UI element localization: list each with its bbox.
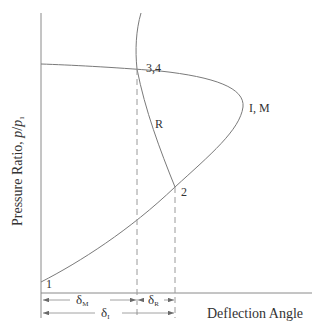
- label-point-3-4: 3,4: [146, 61, 161, 75]
- shock-polar-diagram: 1 3,4 I, M 2 R δM δR δI Deflection Angle…: [0, 0, 324, 332]
- label-point-1: 1: [46, 277, 52, 291]
- label-delta-I: δI: [101, 305, 110, 321]
- incident-shock-polar: [41, 64, 243, 282]
- x-axis-label: Deflection Angle: [207, 306, 303, 321]
- reflected-shock-polar: [136, 13, 175, 187]
- label-point-I-M: I, M: [249, 101, 270, 115]
- label-delta-M: δM: [76, 292, 89, 308]
- label-delta-R: δR: [148, 292, 159, 308]
- axes: [41, 13, 312, 318]
- y-axis-label: Pressure Ratio, p/p1: [10, 116, 26, 226]
- label-point-2: 2: [181, 185, 187, 199]
- label-curve-R: R: [155, 117, 163, 131]
